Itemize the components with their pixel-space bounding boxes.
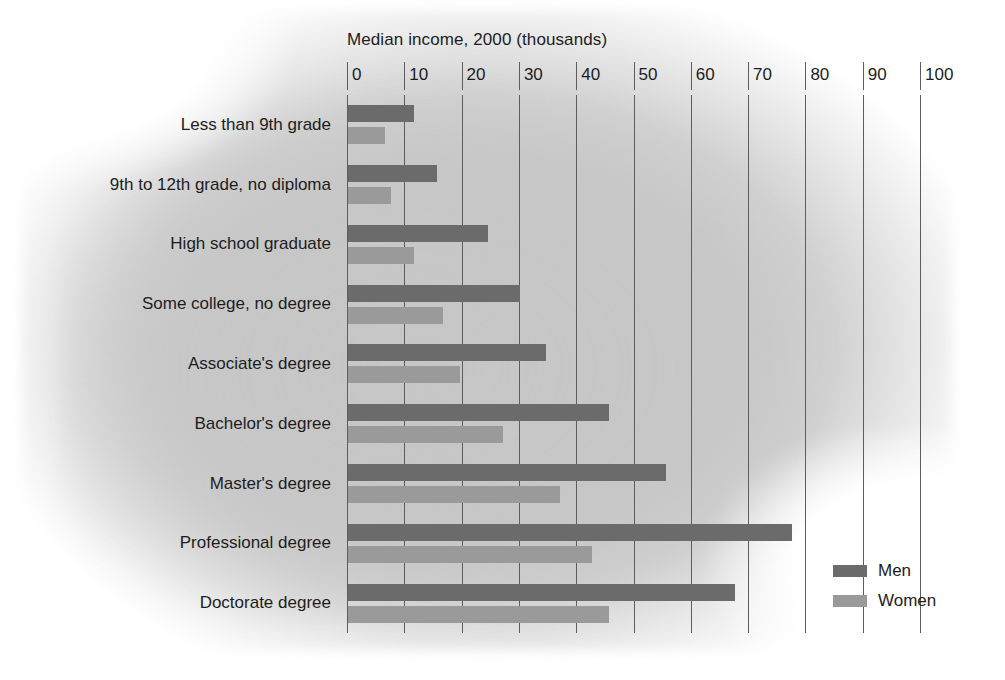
chart-title: Median income, 2000 (thousands) xyxy=(347,30,607,50)
legend-item-men: Men xyxy=(833,556,983,586)
x-tick-label-10: 10 xyxy=(404,62,428,88)
chart-row: High school graduate xyxy=(347,215,920,275)
bar-men xyxy=(348,105,414,122)
bar-women xyxy=(348,247,414,264)
x-tick-label-60: 60 xyxy=(691,62,715,88)
x-tick-label-40: 40 xyxy=(576,62,600,88)
plot-area: 0102030405060708090100Less than 9th grad… xyxy=(347,95,920,633)
x-tick-label-30: 30 xyxy=(519,62,543,88)
x-tick-label-90: 90 xyxy=(863,62,887,88)
legend-item-women: Women xyxy=(833,586,983,616)
category-label: Bachelor's degree xyxy=(195,414,332,434)
category-label: 9th to 12th grade, no diploma xyxy=(110,175,331,195)
bar-men xyxy=(348,344,546,361)
bar-women xyxy=(348,127,385,144)
bar-women xyxy=(348,307,443,324)
legend-swatch-women-icon xyxy=(833,595,867,607)
legend-label-women: Women xyxy=(878,591,936,611)
chart-row: Master's degree xyxy=(347,454,920,514)
category-label: Less than 9th grade xyxy=(181,115,331,135)
bar-men xyxy=(348,584,735,601)
chart-row: Some college, no degree xyxy=(347,274,920,334)
chart-row: Bachelor's degree xyxy=(347,394,920,454)
category-label: Doctorate degree xyxy=(200,593,331,613)
bar-women xyxy=(348,187,391,204)
bar-women xyxy=(348,546,592,563)
bar-women xyxy=(348,366,460,383)
bar-women xyxy=(348,486,560,503)
x-tick-label-100: 100 xyxy=(920,62,953,88)
category-label: Master's degree xyxy=(210,474,331,494)
category-label: Associate's degree xyxy=(188,354,331,374)
category-label: High school graduate xyxy=(170,234,331,254)
bar-men xyxy=(348,464,666,481)
bar-men xyxy=(348,524,792,541)
chart-row: Associate's degree xyxy=(347,334,920,394)
bar-men xyxy=(348,285,520,302)
chart-legend: Men Women xyxy=(833,556,983,616)
bar-women xyxy=(348,426,503,443)
x-tick-label-20: 20 xyxy=(462,62,486,88)
category-label: Some college, no degree xyxy=(142,294,331,314)
chart-row: 9th to 12th grade, no diploma xyxy=(347,155,920,215)
x-tick-label-0: 0 xyxy=(347,62,361,88)
chart-row: Less than 9th grade xyxy=(347,95,920,155)
bar-men xyxy=(348,165,437,182)
legend-swatch-men-icon xyxy=(833,565,867,577)
category-label: Professional degree xyxy=(180,533,331,553)
bar-men xyxy=(348,404,609,421)
legend-label-men: Men xyxy=(878,561,911,581)
bar-men xyxy=(348,225,488,242)
gridline-100 xyxy=(920,95,921,633)
x-tick-label-70: 70 xyxy=(748,62,772,88)
bar-women xyxy=(348,606,609,623)
x-tick-label-80: 80 xyxy=(805,62,829,88)
x-tick-label-50: 50 xyxy=(634,62,658,88)
